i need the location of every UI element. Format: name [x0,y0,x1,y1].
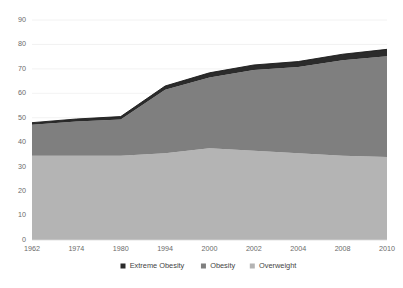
x-tick-label-2002: 2002 [246,244,262,253]
x-tick-label-1962: 1962 [24,244,40,253]
x-axis-tick-labels: 196219741980199420002002200420082010 [24,244,395,253]
y-tick-label-60: 60 [18,88,26,97]
x-tick-label-2010: 2010 [379,244,395,253]
legend-marker-obesity [201,264,206,269]
legend-label-overweight: Overweight [259,261,296,270]
y-tick-label-10: 10 [18,210,26,219]
x-tick-label-1974: 1974 [68,244,84,253]
y-tick-label-0: 0 [22,235,26,244]
y-tick-label-80: 80 [18,39,26,48]
x-tick-label-2000: 2000 [202,244,218,253]
stacked-area-chart: 0102030405060708090 19621974198019942000… [0,0,403,288]
y-tick-label-50: 50 [18,113,26,122]
y-tick-label-20: 20 [18,186,26,195]
area-series-overweight [32,148,387,240]
y-tick-label-30: 30 [18,162,26,171]
legend-label-obesity: Obesity [210,261,235,270]
y-tick-label-70: 70 [18,64,26,73]
x-tick-label-2004: 2004 [290,244,306,253]
legend-marker-extreme-obesity [121,264,126,269]
chart-container: 0102030405060708090 19621974198019942000… [0,0,403,288]
legend-label-extreme-obesity: Extreme Obesity [130,261,185,270]
x-tick-label-2008: 2008 [335,244,351,253]
y-tick-label-90: 90 [18,15,26,24]
legend-marker-overweight [250,264,255,269]
y-tick-label-40: 40 [18,137,26,146]
x-tick-label-1980: 1980 [113,244,129,253]
x-tick-label-1994: 1994 [157,244,173,253]
